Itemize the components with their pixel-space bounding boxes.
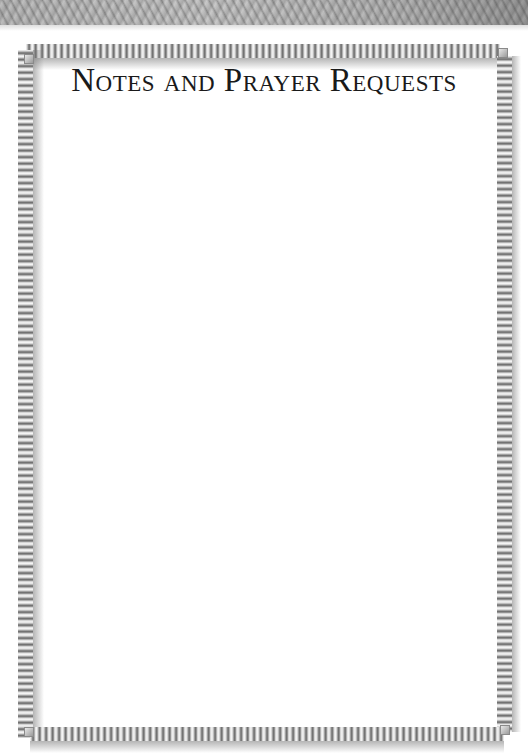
top-spring-border — [26, 44, 500, 58]
page-title: Notes and Prayer Requests — [0, 62, 528, 98]
corner-joint-top-right — [498, 48, 508, 58]
corner-joint-bottom-left — [24, 727, 34, 737]
right-spring-border — [497, 56, 512, 732]
bottom-spring-border — [30, 727, 504, 741]
corner-joint-bottom-right — [500, 725, 510, 735]
left-spring-border — [18, 50, 33, 738]
notes-writing-area — [40, 110, 490, 715]
